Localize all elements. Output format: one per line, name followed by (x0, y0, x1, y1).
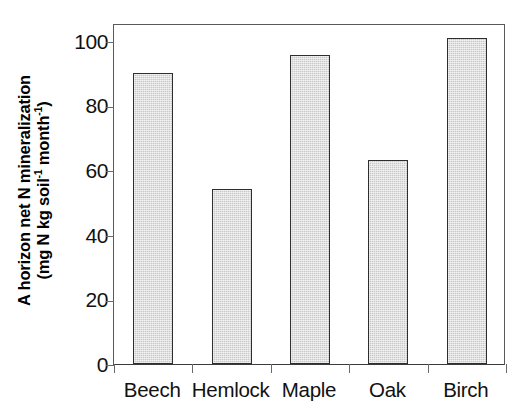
bar-birch (447, 38, 487, 364)
x-axis-tick-labels: BeechHemlockMapleOakBirch (113, 378, 505, 408)
x-axis-tick-mark (271, 364, 272, 373)
x-axis-tick-mark (114, 364, 115, 373)
bar-beech (133, 73, 173, 364)
y-axis-units-prefix: (mg N kg soil (34, 178, 52, 279)
y-axis-title-line1: A horizon net N mineralization (15, 75, 34, 306)
x-axis-tick-label-hemlock: Hemlock (192, 378, 270, 402)
y-axis-tick-labels: 020406080100 (58, 0, 108, 414)
x-axis-tick-label-maple: Maple (282, 378, 336, 402)
y-axis-tick-label: 60 (64, 159, 108, 183)
y-axis-tick-label: 100 (64, 30, 108, 54)
y-axis-units-mid: month (34, 115, 52, 169)
bar-oak (368, 160, 408, 364)
y-axis-title: A horizon net N mineralization (mg N kg … (6, 0, 62, 380)
y-axis-tick-label: 0 (64, 353, 108, 377)
plot-area (113, 24, 505, 365)
x-axis-tick-mark (506, 364, 507, 373)
x-axis-tick-label-birch: Birch (443, 378, 488, 402)
y-axis-units-sup1: -1 (33, 169, 45, 178)
bar-hemlock (212, 189, 252, 364)
x-axis-tick-mark (349, 364, 350, 373)
x-axis-tick-mark (428, 364, 429, 373)
y-axis-tick-label: 20 (64, 288, 108, 312)
y-axis-tick-label: 40 (64, 224, 108, 248)
y-axis-tick-mark (106, 171, 114, 172)
chart-figure: A horizon net N mineralization (mg N kg … (0, 0, 523, 414)
y-axis-units-sup2: -1 (33, 106, 45, 115)
bar-maple (290, 55, 330, 364)
x-axis-tick-label-oak: Oak (369, 378, 406, 402)
y-axis-tick-mark (106, 365, 114, 366)
y-axis-title-line2: (mg N kg soil-1 month-1) (34, 75, 53, 306)
x-axis-tick-label-beech: Beech (124, 378, 181, 402)
y-axis-tick-mark (106, 301, 114, 302)
y-axis-tick-label: 80 (64, 94, 108, 118)
y-axis-tick-mark (106, 236, 114, 237)
y-axis-tick-mark (106, 107, 114, 108)
y-axis-units-suffix: ) (34, 101, 52, 106)
y-axis-tick-mark (106, 42, 114, 43)
x-axis-tick-mark (192, 364, 193, 373)
